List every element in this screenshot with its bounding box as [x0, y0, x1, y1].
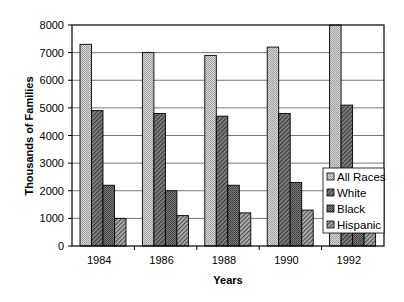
x-tick-label: 1984: [87, 254, 111, 266]
y-axis-title: Thousands of Families: [23, 76, 35, 195]
bar-black-1984: [103, 185, 115, 246]
y-tick-label: 6000: [40, 74, 64, 86]
y-tick-label: 7000: [40, 47, 64, 59]
bar-black-1988: [228, 185, 240, 246]
bar-hispanic-1990: [302, 210, 314, 246]
legend-item-label: Black: [337, 203, 365, 215]
bar-all-races-1986: [142, 53, 154, 246]
x-tick-label: 1990: [274, 254, 298, 266]
bar-white-1990: [279, 113, 291, 246]
legend-swatch-icon: [327, 189, 334, 196]
bar-hispanic-1984: [115, 218, 127, 246]
y-axis: 010002000300040005000600070008000: [40, 19, 72, 252]
legend-item-label: All Races: [337, 171, 386, 183]
bar-all-races-1988: [205, 55, 217, 246]
x-axis: 19841986198819901992: [87, 246, 361, 266]
x-tick-label: 1988: [212, 254, 236, 266]
y-tick-label: 3000: [40, 157, 64, 169]
y-tick-label: 4000: [40, 130, 64, 142]
bar-chart: 010002000300040005000600070008000 198419…: [0, 0, 404, 302]
x-axis-title: Years: [213, 274, 242, 286]
x-tick-label: 1992: [337, 254, 361, 266]
legend-item-label: White: [337, 187, 366, 199]
legend-swatch-icon: [327, 205, 334, 212]
bar-black-1986: [165, 191, 177, 246]
legend-item-label: Hispanic: [337, 219, 381, 231]
bar-hispanic-1988: [239, 213, 251, 246]
legend: All RacesWhiteBlackHispanic: [323, 168, 386, 233]
legend-swatch-icon: [327, 173, 334, 180]
y-tick-label: 0: [58, 240, 64, 252]
bar-white-1984: [92, 111, 104, 246]
y-tick-label: 2000: [40, 185, 64, 197]
bar-white-1988: [216, 116, 228, 246]
y-tick-label: 5000: [40, 102, 64, 114]
bar-all-races-1990: [267, 47, 279, 246]
y-tick-label: 8000: [40, 19, 64, 31]
bar-all-races-1984: [80, 44, 92, 246]
x-tick-label: 1986: [149, 254, 173, 266]
y-tick-label: 1000: [40, 212, 64, 224]
bar-hispanic-1986: [177, 216, 189, 246]
bar-white-1986: [154, 113, 166, 246]
bar-black-1990: [290, 182, 302, 246]
legend-swatch-icon: [327, 221, 334, 228]
